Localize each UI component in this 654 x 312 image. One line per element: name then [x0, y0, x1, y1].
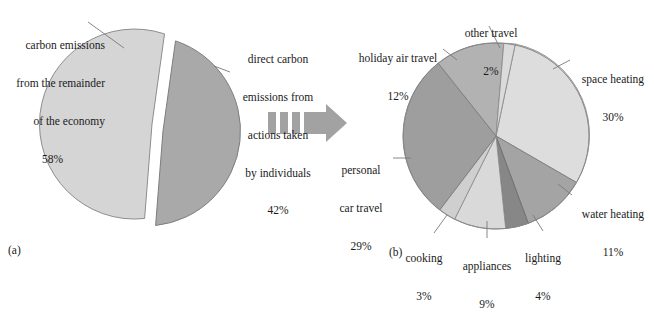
pie-b-label-lighting: lighting 4% — [515, 227, 571, 312]
label-line: cooking — [396, 252, 452, 265]
pie-a-label-remainder-of-economy: carbon emissions from the remainder of t… — [0, 14, 105, 190]
label-line: appliances — [452, 260, 522, 273]
label-line: direct carbon — [232, 53, 324, 66]
label-line: carbon emissions — [0, 39, 105, 52]
label-value: 4% — [515, 290, 571, 303]
label-value: 58% — [0, 153, 105, 166]
pie-b-label-cooking: cooking 3% — [396, 227, 452, 312]
pie-b-label-other-travel: other travel 2% — [448, 2, 534, 103]
label-line: actions taken — [232, 129, 324, 142]
label-line: personal — [330, 164, 392, 177]
label-value: 29% — [330, 240, 392, 253]
label-line: space heating — [572, 73, 654, 86]
pie-b-label-water-heating: water heating 11% — [572, 183, 654, 284]
label-value: 42% — [232, 204, 324, 217]
pie-b-label-personal-car-travel: personal car travel 29% — [330, 139, 392, 278]
label-line: by individuals — [232, 167, 324, 180]
label-value: 9% — [452, 298, 522, 311]
caption-a: (a) — [8, 244, 21, 256]
pie-b-label-appliances: appliances 9% — [452, 235, 522, 312]
label-line: from the remainder — [0, 77, 105, 90]
label-value: 12% — [355, 90, 441, 103]
label-value: 11% — [572, 246, 654, 259]
label-line: water heating — [572, 208, 654, 221]
label-value: 30% — [572, 111, 654, 124]
label-line: holiday air travel — [355, 52, 441, 65]
label-line: emissions from — [232, 91, 324, 104]
pie-b-label-space-heating: space heating 30% — [572, 48, 654, 149]
label-line: car travel — [330, 202, 392, 215]
pie-a-slice-individual-actions[interactable] — [156, 41, 241, 226]
label-line: lighting — [515, 252, 571, 265]
label-value: 2% — [448, 65, 534, 78]
label-value: 3% — [396, 290, 452, 303]
label-line: other travel — [448, 27, 534, 40]
pie-b-label-holiday-air-travel: holiday air travel 12% — [355, 27, 441, 128]
caption-b: (b) — [389, 246, 402, 258]
pie-a-label-individual-actions: direct carbon emissions from actions tak… — [232, 28, 324, 242]
label-line: of the economy — [0, 115, 105, 128]
